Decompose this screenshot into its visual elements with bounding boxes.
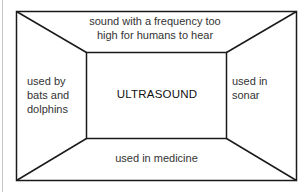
- top-panel-text: sound with a frequency too high for huma…: [60, 14, 250, 42]
- left-line-1: used by: [27, 74, 87, 88]
- right-line-2: sonar: [232, 88, 292, 102]
- top-line-1: sound with a frequency too: [60, 14, 250, 28]
- top-line-2: high for humans to hear: [60, 28, 250, 42]
- left-line-3: dolphins: [27, 102, 87, 116]
- left-line-2: bats and: [27, 88, 87, 102]
- right-line-1: used in: [232, 74, 292, 88]
- right-panel-text: used in sonar: [232, 74, 292, 102]
- connector-bottom-right: [227, 139, 297, 181]
- center-label: ULTRASOUND: [87, 88, 227, 100]
- left-panel-text: used by bats and dolphins: [20, 74, 87, 116]
- bottom-panel-text: used in medicine: [86, 151, 227, 165]
- connector-bottom-left: [17, 139, 87, 181]
